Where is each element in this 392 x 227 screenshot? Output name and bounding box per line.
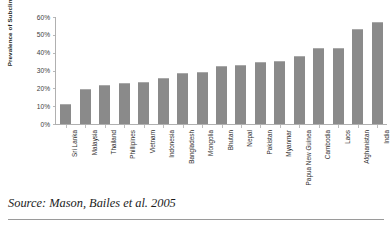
x-axis-tick-mark bbox=[66, 125, 67, 128]
figure-container: Prevalence of Subclinical VAD 60%50%40%3… bbox=[0, 0, 392, 227]
y-axis-tick-label: 50% bbox=[22, 31, 50, 38]
x-axis-tick-label: Nepal bbox=[244, 130, 255, 147]
y-axis-title: Prevalence of Subclinical VAD bbox=[4, 0, 16, 76]
x-axis-tick-mark bbox=[144, 125, 145, 128]
bar bbox=[177, 73, 188, 124]
x-axis-tick-label: India bbox=[381, 130, 392, 144]
y-axis-tick-label: 0% bbox=[22, 121, 50, 128]
bar bbox=[274, 61, 285, 124]
x-axis-tick-mark bbox=[299, 125, 300, 128]
x-axis-tick-label: Pakistan bbox=[264, 130, 275, 155]
bar bbox=[158, 78, 169, 124]
bar bbox=[138, 82, 149, 124]
x-axis-tick-label: Sri Lanka bbox=[69, 130, 80, 157]
x-axis-tick-label: Laos bbox=[342, 130, 353, 144]
bar bbox=[99, 85, 110, 124]
bar bbox=[60, 104, 71, 124]
bar bbox=[255, 62, 266, 124]
bar bbox=[313, 48, 324, 124]
x-axis-tick-mark bbox=[85, 125, 86, 128]
y-axis-tick-label: 10% bbox=[22, 103, 50, 110]
x-axis-tick-label: Bhutan bbox=[225, 130, 236, 150]
x-axis-tick-label: Papua New Guinea bbox=[303, 130, 314, 185]
bar bbox=[197, 72, 208, 124]
x-axis-tick-mark bbox=[105, 125, 106, 128]
x-axis-tick-label: Vietnam bbox=[147, 130, 158, 153]
x-axis-tick-label: Bangladesh bbox=[186, 130, 197, 164]
bar bbox=[216, 66, 227, 124]
x-axis-tick-mark bbox=[358, 125, 359, 128]
x-axis-tick-label: Indonesia bbox=[166, 130, 177, 158]
x-axis-tick-mark bbox=[280, 125, 281, 128]
x-axis-tick-mark bbox=[183, 125, 184, 128]
y-axis-tick-label: 40% bbox=[22, 49, 50, 56]
bar bbox=[333, 48, 344, 124]
x-axis-tick-label: Malaysia bbox=[89, 130, 100, 155]
bar bbox=[235, 65, 246, 124]
x-axis-tick-label: Cambodia bbox=[322, 130, 333, 159]
y-axis-tick-label: 60% bbox=[22, 14, 50, 21]
x-axis-tick-label: Afghanistan bbox=[361, 130, 372, 164]
x-axis-tick-mark bbox=[377, 125, 378, 128]
bar bbox=[119, 83, 130, 124]
bar bbox=[294, 56, 305, 124]
x-axis-tick-label: Thailand bbox=[108, 130, 119, 155]
footer-divider bbox=[8, 219, 384, 220]
x-axis-tick-mark bbox=[202, 125, 203, 128]
bar-chart: Prevalence of Subclinical VAD 60%50%40%3… bbox=[0, 0, 392, 186]
x-axis-tick-mark bbox=[124, 125, 125, 128]
x-axis-tick-mark bbox=[338, 125, 339, 128]
bar bbox=[372, 22, 383, 124]
x-axis-tick-label: Phillipines bbox=[127, 130, 138, 159]
x-axis-tick-mark bbox=[222, 125, 223, 128]
y-axis-tick-label: 30% bbox=[22, 67, 50, 74]
x-axis-tick-mark bbox=[319, 125, 320, 128]
x-axis-tick-mark bbox=[163, 125, 164, 128]
x-axis-tick-label: Mongolia bbox=[205, 130, 216, 156]
x-axis-tick-mark bbox=[260, 125, 261, 128]
plot-area bbox=[56, 17, 387, 124]
y-axis-tick-label: 20% bbox=[22, 85, 50, 92]
x-axis-tick-mark bbox=[241, 125, 242, 128]
source-caption: Source: Mason, Bailes et al. 2005 bbox=[8, 196, 176, 211]
x-axis-tick-label: Myanmar bbox=[283, 130, 294, 157]
bar bbox=[80, 89, 91, 124]
bar bbox=[352, 29, 363, 124]
